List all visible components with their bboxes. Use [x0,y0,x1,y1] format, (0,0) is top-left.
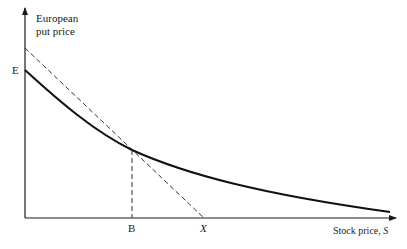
b-tick-label: B [128,222,135,234]
y-axis-label-line1: European [36,12,79,24]
put-price-curve [25,70,390,212]
lower-bound-dashed-line [25,48,204,218]
y-axis-label-line2: put price [36,25,75,37]
put-price-chart: European put price E B X Stock price, S [0,0,407,249]
x-tick-label: X [199,222,208,234]
e-tick-label: E [12,64,19,76]
x-axis-label: Stock price, S [333,225,388,236]
